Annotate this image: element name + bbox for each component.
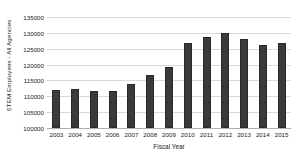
bar[interactable] (221, 33, 229, 128)
y-axis-tick-label: 110000 (24, 93, 44, 100)
bar-slot (141, 17, 160, 128)
x-axis-tick-label: 2010 (178, 130, 197, 142)
x-axis-tick-label: 2011 (197, 130, 216, 142)
x-axis-tick-label: 2003 (47, 130, 66, 142)
bar[interactable] (240, 39, 248, 128)
x-axis-tick-label: 2015 (272, 130, 291, 142)
x-axis-tick-label: 2004 (66, 130, 85, 142)
bar-slot (47, 17, 66, 128)
bar[interactable] (90, 91, 98, 128)
x-axis-tick-label: 2005 (85, 130, 104, 142)
bar[interactable] (109, 91, 117, 128)
x-axis-title: Fiscal Year (47, 143, 291, 150)
bar-slot (197, 17, 216, 128)
bar-slot (160, 17, 179, 128)
bar-slot (253, 17, 272, 128)
x-axis-line (47, 128, 291, 129)
bar-slot (85, 17, 104, 128)
y-axis-tick-label: 130000 (23, 29, 44, 36)
bar-slot (235, 17, 254, 128)
y-axis-tick-label: 125000 (23, 45, 44, 52)
bars-layer (47, 17, 291, 128)
y-axis-title-text: STEM Employees - All Agencies (6, 19, 13, 111)
x-axis-tick-label: 2008 (141, 130, 160, 142)
x-axis-tick-label: 2007 (122, 130, 141, 142)
bar[interactable] (127, 84, 135, 128)
x-axis-tick-labels: 2003200420052006200720082009201020112012… (47, 130, 291, 142)
x-axis-tick-label: 2013 (235, 130, 254, 142)
bar-slot (272, 17, 291, 128)
bar-chart: STEM Employees - All Agencies 1350001300… (0, 0, 298, 164)
y-axis-tick-label: 115000 (24, 77, 44, 84)
bar-slot (103, 17, 122, 128)
x-axis-tick-label: 2012 (216, 130, 235, 142)
y-axis-tick-labels: 1350001300001250001200001150001100001050… (16, 13, 46, 132)
bar[interactable] (146, 75, 154, 128)
x-axis-tick-label: 2006 (103, 130, 122, 142)
bar[interactable] (165, 67, 173, 128)
bar-slot (178, 17, 197, 128)
y-axis-tick-label: 100000 (23, 125, 44, 132)
bar[interactable] (278, 43, 286, 128)
bar-slot (216, 17, 235, 128)
bar[interactable] (71, 89, 79, 128)
bar[interactable] (203, 37, 211, 128)
bar[interactable] (52, 90, 60, 128)
y-axis-tick-label: 135000 (23, 14, 44, 21)
bar-slot (66, 17, 85, 128)
y-axis-tick-label: 120000 (23, 61, 44, 68)
bar[interactable] (259, 45, 267, 128)
x-axis-tick-label: 2009 (160, 130, 179, 142)
bar[interactable] (184, 43, 192, 128)
y-axis-tick-label: 105000 (23, 109, 44, 116)
bar-slot (122, 17, 141, 128)
x-axis-tick-label: 2014 (253, 130, 272, 142)
